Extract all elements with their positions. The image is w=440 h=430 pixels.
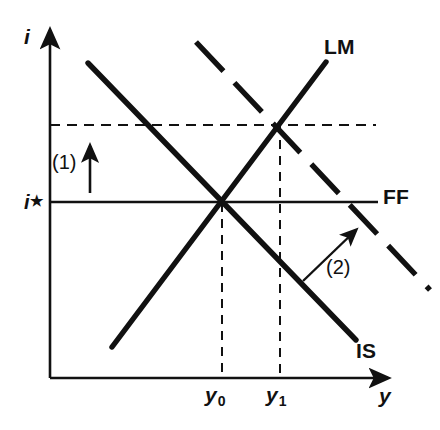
shift-1-label: (1) bbox=[52, 152, 76, 172]
ff-curve-label: FF bbox=[383, 186, 409, 207]
lm-curve bbox=[112, 62, 326, 347]
isl m-ff-diagram: i y i★ LM IS FF (1) (2) y0 y1 bbox=[0, 0, 440, 430]
x-axis-label: y bbox=[379, 385, 391, 406]
output-0-tick-label: y0 bbox=[205, 384, 225, 408]
i-star-superscript: ★ bbox=[30, 192, 43, 209]
y0-base: y bbox=[205, 383, 217, 406]
lm-curve-label: LM bbox=[324, 36, 355, 57]
is-curve-label: IS bbox=[356, 340, 376, 361]
y0-subscript: 0 bbox=[218, 393, 226, 409]
y1-subscript: 1 bbox=[279, 393, 287, 409]
interest-rate-tick-label: i★ bbox=[24, 192, 43, 212]
y1-base: y bbox=[266, 383, 278, 406]
shift-2-label: (2) bbox=[326, 257, 350, 277]
output-1-tick-label: y1 bbox=[266, 384, 286, 408]
y-axis-label: i bbox=[24, 26, 30, 47]
diagram-canvas bbox=[0, 0, 440, 430]
